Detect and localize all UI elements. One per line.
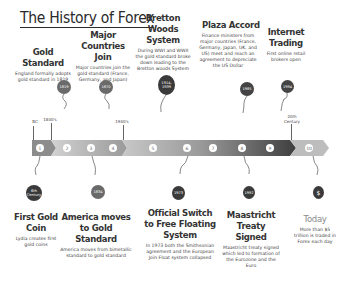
event-desc: Maastricht treaty signed which led to fo… bbox=[222, 245, 280, 269]
timeline-node-4: 4 bbox=[109, 144, 117, 152]
event-title: Official Switch to Free Floating System bbox=[142, 208, 218, 241]
event-title: America moves to Gold Standard bbox=[60, 212, 132, 245]
dollar-icon: $ bbox=[313, 186, 324, 199]
event-desc: America moves from bimetallic standard t… bbox=[60, 247, 132, 259]
event-free-floating: Official Switch to Free Floating System … bbox=[142, 208, 218, 261]
event-today: Today More than $5 trillion is traded in… bbox=[292, 214, 338, 245]
event-desc: In 1973 both the Smithsonian agreement a… bbox=[142, 243, 218, 261]
timeline-node-6: 6 bbox=[183, 144, 191, 152]
timeline-node-1: 1 bbox=[36, 144, 44, 152]
event-title: Maastricht Treaty Signed bbox=[222, 210, 280, 243]
badge-1992: 1992 bbox=[243, 186, 255, 199]
timeline-node-5: 5 bbox=[149, 144, 157, 152]
event-first-gold-coin: First Gold Coin Lydia creates first gold… bbox=[14, 212, 58, 248]
event-maastricht: Maastricht Treaty Signed Maastricht trea… bbox=[222, 210, 280, 269]
badge-6th-century: 6th Century bbox=[26, 185, 42, 201]
timeline-node-9: 9 bbox=[266, 144, 274, 152]
event-title: Today bbox=[292, 214, 338, 225]
event-desc: More than $5 trillion is traded in Forex… bbox=[292, 227, 338, 245]
timeline-node-7: 7 bbox=[209, 144, 217, 152]
badge-1973: 1973 bbox=[172, 186, 185, 200]
event-desc: Lydia creates first gold coins bbox=[14, 236, 58, 248]
event-title: First Gold Coin bbox=[14, 212, 58, 234]
timeline-node-10: 10 bbox=[305, 144, 313, 152]
timeline-node-8: 8 bbox=[238, 144, 246, 152]
event-america-gold: America moves to Gold Standard America m… bbox=[60, 212, 132, 259]
badge-1834: 1834 bbox=[91, 185, 105, 199]
timeline-node-3: 3 bbox=[87, 144, 95, 152]
timeline-node-2: 2 bbox=[63, 144, 71, 152]
